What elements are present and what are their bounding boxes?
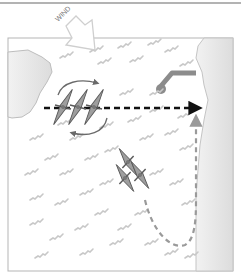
- wind-label: WIND: [54, 5, 72, 23]
- wind-ferry-diagram: WIND: [0, 0, 241, 278]
- wind-arrow-icon: [66, 16, 95, 50]
- diagram-stage: WIND: [0, 0, 241, 278]
